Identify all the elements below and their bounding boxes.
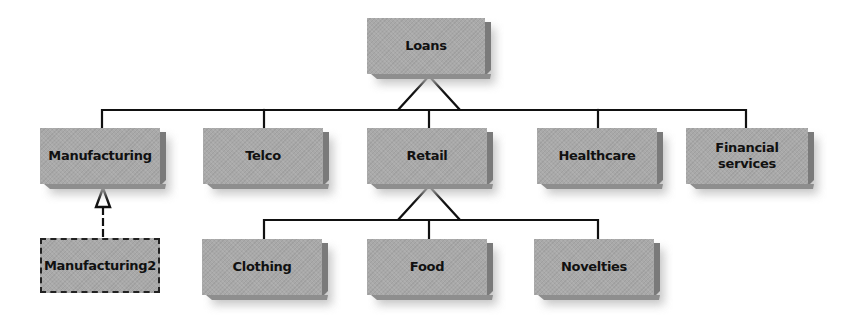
node-face: Clothing [202,239,322,295]
node-side [654,243,660,297]
node-loans[interactable]: Loans [367,18,485,74]
node-face: Loans [367,18,485,74]
node-telco[interactable]: Telco [203,128,323,184]
node-side [487,132,493,186]
node-side [322,243,328,297]
node-retail[interactable]: Retail [367,128,487,184]
node-face: Retail [367,128,487,184]
node-bottom [538,295,660,300]
node-food[interactable]: Food [367,239,487,295]
node-bottom [44,184,166,189]
node-bottom [207,184,329,189]
class-hierarchy-diagram: Loans Manufacturing Telco Retail Hea [0,0,850,330]
node-bottom [371,184,493,189]
node-face: Financial services [686,128,808,184]
node-side [487,243,493,297]
node-side [485,22,491,76]
loans-bus-line [102,110,746,128]
node-bottom [371,74,491,79]
node-side [657,132,663,186]
node-face: Telco [203,128,323,184]
node-face: Food [367,239,487,295]
node-face: Manufacturing2 [40,238,160,293]
node-label: Financial services [701,140,793,172]
node-bottom [541,184,663,189]
node-clothing[interactable]: Clothing [202,239,322,295]
node-label: Telco [239,148,287,164]
node-label: Novelties [555,259,633,275]
node-face: Manufacturing [40,128,160,184]
node-novelties[interactable]: Novelties [534,239,654,295]
node-face: Novelties [534,239,654,295]
node-bottom [690,184,814,189]
node-label: Food [404,259,450,275]
node-bottom [371,295,493,300]
node-manufacturing2[interactable]: Manufacturing2 [40,238,160,293]
node-label: Manufacturing [42,148,157,164]
node-label: Loans [399,38,452,54]
node-manufacturing[interactable]: Manufacturing [40,128,160,184]
node-label: Clothing [226,259,297,275]
node-side [160,132,166,186]
node-label: Retail [401,148,454,164]
node-side [323,132,329,186]
node-label: Healthcare [552,148,641,164]
node-bottom [206,295,328,300]
node-healthcare[interactable]: Healthcare [537,128,657,184]
node-label: Manufacturing2 [38,258,162,274]
node-side [808,132,814,186]
retail-bus-line [264,220,598,239]
node-financial-services[interactable]: Financial services [686,128,808,184]
node-face: Healthcare [537,128,657,184]
